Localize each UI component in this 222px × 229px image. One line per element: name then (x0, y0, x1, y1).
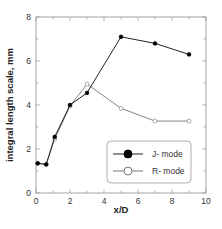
x-tick-label: 2 (68, 196, 73, 206)
filled-circle-icon (124, 150, 132, 158)
legend-label: R- mode (152, 166, 185, 176)
data-point (153, 42, 157, 46)
x-tick-label: 10 (201, 196, 211, 206)
y-tick-label: 8 (26, 12, 31, 22)
data-point (68, 103, 72, 107)
y-tick-label: 0 (26, 188, 31, 198)
y-tick-label: 2 (26, 144, 31, 154)
data-point (187, 119, 191, 123)
x-tick-label: 4 (102, 196, 107, 206)
data-point (36, 161, 40, 165)
y-axis-title: integral length scale, mm (4, 48, 15, 162)
data-point (85, 82, 89, 86)
x-tick-label: 8 (170, 196, 175, 206)
x-axis-title: x/D (114, 204, 129, 215)
legend: J- mode R- mode (107, 141, 191, 183)
legend-label: J- mode (152, 149, 183, 159)
open-circle-icon (124, 167, 132, 175)
data-point (119, 106, 123, 110)
x-tick-label: 6 (136, 196, 141, 206)
data-point (119, 35, 123, 39)
data-point (187, 53, 191, 57)
y-tick-labels: 02468 (26, 12, 31, 198)
y-tick-label: 4 (26, 100, 31, 110)
data-point (153, 119, 157, 123)
data-point (85, 91, 89, 95)
line-chart: 0246810 02468 x/D integral length scale,… (0, 0, 222, 229)
data-point (44, 163, 48, 167)
legend-box (107, 141, 191, 183)
y-tick-label: 6 (26, 56, 31, 66)
data-point (53, 135, 57, 139)
x-tick-label: 0 (34, 196, 39, 206)
